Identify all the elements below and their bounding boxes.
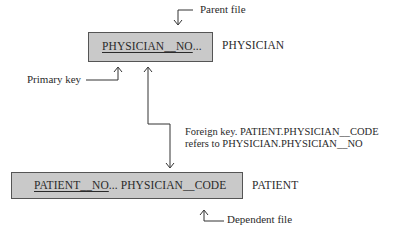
physician-primary-key-field: PHYSICIAN__NO [102,40,193,52]
primary-key-arrow [86,67,122,80]
foreign-key-line-2: refers to PHYSICIAN.PHYSICIAN__NO [185,138,379,150]
patient-table-name: PATIENT [252,179,298,191]
foreign-key-arrow [144,67,174,168]
ellipsis: ... [193,40,202,52]
patient-record-box: PATIENT__NO... PHYSICIAN__CODE [11,172,243,199]
foreign-key-annotation: Foreign key. PATIENT.PHYSICIAN__CODE ref… [185,126,379,150]
patient-primary-key-field: PATIENT__NO [34,179,109,191]
dependent-file-label: Dependent file [227,213,292,225]
ellipsis: ... [109,179,118,191]
dependent-file-arrow [200,210,224,221]
parent-file-label: Parent file [200,3,246,15]
physician-record-box: PHYSICIAN__NO... [88,32,213,62]
primary-key-label: Primary key [27,73,81,85]
physician-table-name: PHYSICIAN [222,39,284,51]
parent-file-arrow [174,10,193,25]
foreign-key-line-1: Foreign key. PATIENT.PHYSICIAN__CODE [185,126,379,138]
patient-fields: PATIENT__NO... PHYSICIAN__CODE [34,179,226,191]
patient-foreign-key-field: PHYSICIAN__CODE [121,179,227,191]
physician-fields: PHYSICIAN__NO... [102,40,202,52]
